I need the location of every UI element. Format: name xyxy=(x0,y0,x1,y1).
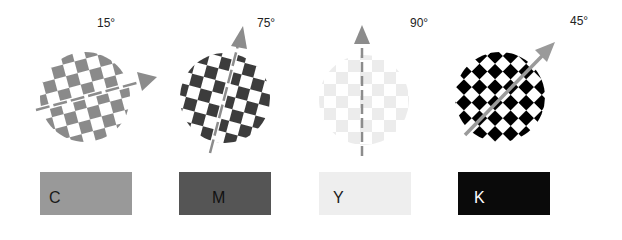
screen-c xyxy=(36,52,157,142)
halftone-circle-y xyxy=(319,55,409,145)
swatch-letter-k: K xyxy=(474,189,485,207)
screen-y xyxy=(319,25,409,156)
swatch-y: Y xyxy=(319,172,411,215)
swatch-m: M xyxy=(179,172,271,215)
screen-k xyxy=(455,42,555,142)
swatch-k: K xyxy=(458,172,550,215)
swatch-c: C xyxy=(40,172,132,215)
swatch-letter-y: Y xyxy=(333,189,344,207)
swatch-letter-m: M xyxy=(212,189,225,207)
screen-m xyxy=(180,26,270,153)
swatch-letter-c: C xyxy=(49,189,61,207)
